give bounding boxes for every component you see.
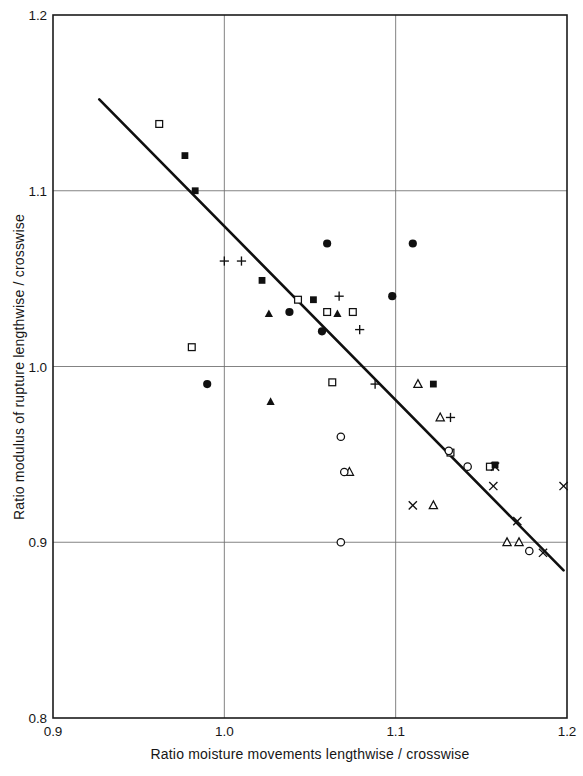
marker-filled-square: [182, 152, 189, 159]
marker-open-circle: [464, 463, 471, 470]
marker-open-square: [156, 121, 163, 128]
marker-open-triangle: [414, 380, 422, 388]
marker-open-square: [295, 296, 302, 303]
marker-open-circle: [341, 468, 348, 475]
marker-open-square: [324, 309, 331, 316]
marker-filled-circle: [323, 239, 331, 247]
marker-filled-triangle: [265, 309, 273, 317]
marker-open-triangle: [515, 538, 523, 546]
marker-filled-square: [430, 381, 437, 388]
x-tick-label: 1.0: [215, 724, 233, 739]
y-axis-title: Ratio modulus of rupture lengthwise / cr…: [11, 214, 27, 520]
marker-open-square: [188, 344, 195, 351]
x-tick-label: 0.9: [44, 724, 62, 739]
marker-filled-triangle: [333, 309, 341, 317]
x-tick-labels: 0.91.01.11.2: [44, 724, 576, 739]
y-tick-label: 1.0: [29, 360, 47, 375]
x-tick-label: 1.2: [558, 724, 576, 739]
marker-open-circle: [337, 539, 344, 546]
series-cross: [409, 463, 568, 557]
marker-open-triangle: [436, 413, 444, 421]
marker-filled-square: [192, 187, 199, 194]
series-filled-triangle: [265, 309, 342, 405]
series-open-circle: [337, 433, 533, 555]
y-tick-label: 1.2: [29, 8, 47, 23]
marker-open-triangle: [429, 501, 437, 509]
grid-layer: [53, 15, 567, 718]
marker-filled-circle: [318, 327, 326, 335]
y-tick-label: 0.9: [29, 535, 47, 550]
y-tick-label: 1.1: [29, 184, 47, 199]
y-tick-labels: 0.80.91.01.11.2: [29, 8, 47, 726]
y-tick-label: 0.8: [29, 711, 47, 726]
marker-filled-circle: [388, 292, 396, 300]
scatter-plot: 0.91.01.11.2 0.80.91.01.11.2 Ratio moist…: [0, 0, 583, 776]
marker-open-square: [349, 309, 356, 316]
x-tick-label: 1.1: [386, 724, 404, 739]
marker-open-square: [329, 379, 336, 386]
marker-filled-circle: [203, 380, 211, 388]
marker-filled-triangle: [266, 397, 274, 405]
data-markers: [156, 121, 568, 557]
marker-open-triangle: [503, 538, 511, 546]
trend-line-segment: [99, 99, 563, 570]
marker-open-circle: [337, 433, 344, 440]
x-axis-title: Ratio moisture movements lengthwise / cr…: [150, 746, 469, 762]
marker-filled-square: [259, 277, 266, 284]
marker-open-circle: [445, 447, 452, 454]
trend-line: [99, 99, 563, 570]
marker-open-circle: [526, 547, 533, 554]
marker-filled-circle: [409, 239, 417, 247]
marker-filled-square: [310, 296, 317, 303]
marker-filled-circle: [285, 308, 293, 316]
figure-container: 0.91.01.11.2 0.80.91.01.11.2 Ratio moist…: [0, 0, 583, 776]
